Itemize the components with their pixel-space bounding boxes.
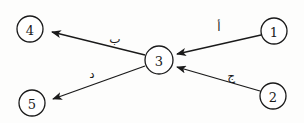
edge-3-to-5 xyxy=(53,66,145,99)
edge-label-2-to-3: ج xyxy=(227,69,235,83)
node-2-label: 2 xyxy=(269,90,277,105)
graph-svg: أ ج ب د 1 2 3 4 5 xyxy=(0,0,304,123)
node-3: 3 xyxy=(145,46,173,74)
node-5-label: 5 xyxy=(28,97,36,112)
edge-label-3-to-4: ب xyxy=(109,32,120,46)
edge-2-to-3 xyxy=(177,67,260,91)
node-5: 5 xyxy=(19,90,45,116)
edge-label-1-to-3: أ xyxy=(217,19,220,34)
node-4: 4 xyxy=(17,16,43,42)
diagram-canvas: أ ج ب د 1 2 3 4 5 xyxy=(0,0,304,123)
edge-label-3-to-5: د xyxy=(89,67,94,81)
node-2: 2 xyxy=(260,83,286,109)
node-3-label: 3 xyxy=(155,54,163,69)
node-1: 1 xyxy=(261,18,287,44)
node-4-label: 4 xyxy=(26,23,34,38)
edge-1-to-3 xyxy=(177,35,261,54)
edge-3-to-4 xyxy=(52,32,145,55)
node-1-label: 1 xyxy=(270,25,278,40)
